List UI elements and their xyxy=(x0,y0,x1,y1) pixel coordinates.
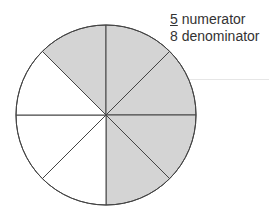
numerator-label: 5 numerator xyxy=(170,11,246,27)
numerator-value: 5 xyxy=(170,11,178,27)
denominator-value: 8 xyxy=(170,28,178,44)
denominator-text: denominator xyxy=(182,28,260,44)
numerator-text: numerator xyxy=(182,11,246,27)
denominator-label: 8 denominator xyxy=(170,28,260,44)
